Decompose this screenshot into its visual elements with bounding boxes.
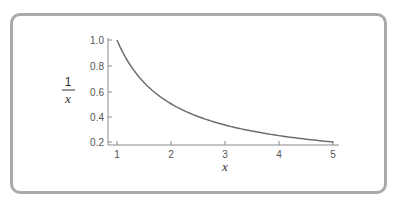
y-tick-label: 1.0	[90, 35, 104, 46]
x-ticks: 1 2 3 4 5	[114, 141, 336, 160]
x-axis-title: x	[221, 159, 228, 174]
y-tick-label: 0.4	[90, 112, 104, 123]
y-tick-label: 0.6	[90, 87, 104, 98]
y-ticks: 1.0 0.8 0.6 0.4 0.2	[90, 35, 112, 148]
y-axis-title: 1 x	[62, 75, 75, 106]
x-tick-label: 1	[114, 149, 120, 160]
y-tick-label: 0.2	[90, 137, 104, 148]
y-axis-denominator: x	[64, 91, 71, 106]
chart-svg: 1.0 0.8 0.6 0.4 0.2 1 2 3 4 5 x 1 x	[0, 0, 397, 203]
y-tick-label: 0.8	[90, 61, 104, 72]
y-axis-numerator: 1	[65, 75, 72, 89]
x-tick-label: 4	[276, 149, 282, 160]
x-tick-label: 5	[330, 149, 336, 160]
x-tick-label: 2	[168, 149, 174, 160]
curve-1-over-x	[117, 40, 333, 142]
